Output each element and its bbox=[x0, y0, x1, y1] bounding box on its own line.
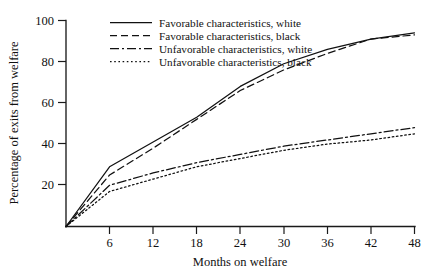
legend: Favorable characteristics, white Favorab… bbox=[110, 17, 312, 68]
x-tick-label-42: 42 bbox=[365, 236, 378, 250]
y-tick-label-20: 20 bbox=[42, 178, 55, 192]
y-tick-label-40: 40 bbox=[42, 137, 55, 151]
series-line-unfavorable-white bbox=[66, 128, 415, 227]
x-axis-tick-labels: 6 12 18 24 30 36 42 48 bbox=[106, 236, 420, 250]
y-axis-ticks bbox=[58, 21, 66, 185]
y-axis-title: Percentage of exits from welfare bbox=[7, 41, 21, 205]
x-tick-label-12: 12 bbox=[147, 236, 160, 250]
y-tick-label-60: 60 bbox=[42, 96, 55, 110]
figure-container: 100 80 60 40 20 6 12 18 24 30 36 42 48 bbox=[0, 0, 430, 276]
legend-label-unfavorable-white: Unfavorable characteristics, white bbox=[159, 43, 312, 55]
x-tick-label-30: 30 bbox=[278, 236, 291, 250]
x-axis-title: Months on welfare bbox=[193, 255, 288, 269]
x-tick-label-48: 48 bbox=[408, 236, 421, 250]
legend-label-unfavorable-black: Unfavorable characteristics, black bbox=[159, 56, 312, 68]
x-tick-label-24: 24 bbox=[234, 236, 247, 250]
series-line-unfavorable-black bbox=[66, 134, 415, 227]
legend-label-favorable-black: Favorable characteristics, black bbox=[159, 30, 301, 42]
line-chart: 100 80 60 40 20 6 12 18 24 30 36 42 48 bbox=[0, 0, 430, 276]
x-tick-label-6: 6 bbox=[106, 236, 112, 250]
x-tick-label-36: 36 bbox=[321, 236, 334, 250]
x-axis-ticks bbox=[110, 227, 415, 235]
y-tick-label-80: 80 bbox=[42, 55, 55, 69]
y-axis-tick-labels: 100 80 60 40 20 bbox=[35, 14, 54, 192]
x-tick-label-18: 18 bbox=[190, 236, 203, 250]
legend-label-favorable-white: Favorable characteristics, white bbox=[159, 17, 301, 29]
y-tick-label-100: 100 bbox=[35, 14, 54, 28]
